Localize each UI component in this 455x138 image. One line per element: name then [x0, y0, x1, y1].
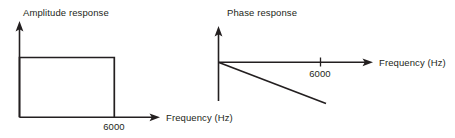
phase-cutoff-tick-label: 6000: [309, 68, 331, 79]
figure-container: Amplitude response 6000 Frequency (Hz) P…: [0, 0, 455, 138]
amplitude-plot-title: Amplitude response: [23, 7, 109, 18]
phase-plot-title: Phase response: [227, 7, 297, 18]
amplitude-response-trace: [20, 58, 115, 118]
amplitude-x-axis-label: Frequency (Hz): [166, 112, 233, 123]
amplitude-cutoff-tick-label: 6000: [103, 121, 125, 132]
phase-x-axis-label: Frequency (Hz): [379, 57, 446, 68]
phase-response-plot: Phase response 6000 Frequency (Hz): [215, 7, 446, 104]
filter-response-figure: Amplitude response 6000 Frequency (Hz) P…: [0, 0, 455, 138]
amplitude-response-plot: Amplitude response 6000 Frequency (Hz): [16, 7, 233, 132]
